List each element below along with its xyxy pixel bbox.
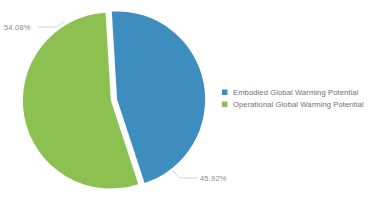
legend-item-operational[interactable]: Operational Global Warming Potential bbox=[222, 100, 364, 109]
leader-line-embodied bbox=[172, 170, 197, 178]
leader-line-operational bbox=[38, 22, 64, 27]
legend-item-embodied[interactable]: Embodied Global Warming Potential bbox=[222, 88, 359, 97]
pie-chart-widget: 54.08% 45.92% Embodied Global Warming Po… bbox=[0, 0, 379, 204]
pie-chart-canvas: 54.08% 45.92% Embodied Global Warming Po… bbox=[0, 0, 379, 204]
legend-label-operational: Operational Global Warming Potential bbox=[233, 100, 364, 109]
legend: Embodied Global Warming Potential Operat… bbox=[222, 88, 364, 109]
legend-swatch-operational bbox=[222, 102, 228, 108]
slice-label-operational: 54.08% bbox=[4, 23, 31, 32]
legend-swatch-embodied bbox=[222, 90, 228, 96]
legend-label-embodied: Embodied Global Warming Potential bbox=[233, 88, 359, 97]
slice-label-embodied: 45.92% bbox=[200, 174, 227, 183]
